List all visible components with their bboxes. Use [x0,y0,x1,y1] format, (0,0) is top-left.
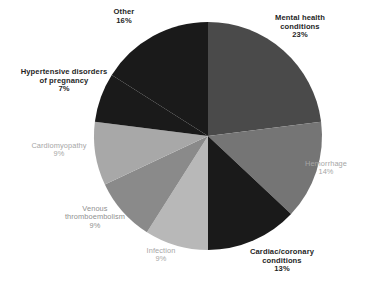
pie-label-cardiomyopathy: Cardiomyopathy 9% [16,142,102,159]
pie-label-infection: Infection 9% [126,247,196,264]
pie-label-percent: 9% [126,255,196,263]
pie-label-percent: 7% [4,85,124,94]
pie-label-venous-thromboembolism: Venous thromboembolism 9% [48,205,142,230]
pie-label-other: Other 16% [94,8,154,25]
pie-label-percent: 9% [48,222,142,230]
pie-label-hemorrhage: Hemorrhage 14% [284,160,368,177]
pie-label-percent: 14% [284,168,368,176]
pie-label-percent: 13% [228,265,336,274]
pie-label-percent: 9% [16,150,102,158]
pie-label-percent: 23% [252,31,348,40]
pie-chart: Mental health conditions 23% Hemorrhage … [0,0,376,284]
pie-label-mental-health-conditions: Mental health conditions 23% [252,14,348,40]
pie-label-percent: 16% [94,17,154,26]
pie-label-hypertensive-disorders-of-pregnancy: Hypertensive disorders of pregnancy 7% [4,68,124,94]
pie-label-cardiac-coronary-conditions: Cardiac/coronary conditions 13% [228,248,336,274]
